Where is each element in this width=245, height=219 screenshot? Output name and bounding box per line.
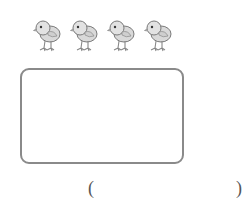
answer-blank-close-paren: ) xyxy=(236,178,242,198)
answer-blank-open-paren: ( xyxy=(88,178,94,198)
chick-icon xyxy=(69,17,101,53)
chick-icon xyxy=(106,17,138,53)
chick-icon xyxy=(143,17,175,53)
chick-row xyxy=(32,17,175,53)
answer-blank-field[interactable] xyxy=(100,180,230,198)
chick-icon xyxy=(32,17,64,53)
answer-box[interactable] xyxy=(20,68,184,164)
